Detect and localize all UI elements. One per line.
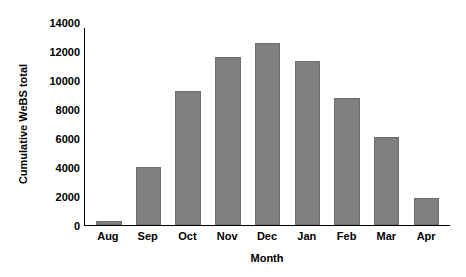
y-axis-tick: 6000 <box>34 133 80 145</box>
x-axis-tick: Aug <box>88 230 128 246</box>
bar <box>295 61 320 225</box>
y-axis-tick: 8000 <box>34 104 80 116</box>
x-axis-tick: Nov <box>207 230 247 246</box>
bar <box>414 198 439 225</box>
x-axis-tick: Feb <box>327 230 367 246</box>
y-axis-title: Cumulative WeBS total <box>14 14 32 234</box>
x-axis-tick: Sep <box>128 230 168 246</box>
bar <box>334 98 359 225</box>
x-axis-title: Month <box>84 252 450 264</box>
x-axis-tick: Dec <box>247 230 287 246</box>
bar-slot <box>406 28 446 225</box>
bar-slot <box>248 28 288 225</box>
bar-slot <box>89 28 129 225</box>
bar-slot <box>327 28 367 225</box>
bar-slot <box>168 28 208 225</box>
y-axis-tick: 0 <box>34 220 80 232</box>
x-axis-tick: Apr <box>406 230 446 246</box>
bar-chart: Cumulative WeBS total 140001200010000800… <box>0 0 466 277</box>
y-axis-tick: 14000 <box>34 17 80 29</box>
y-axis-tick: 12000 <box>34 46 80 58</box>
bar-series <box>85 28 450 225</box>
y-axis-title-label: Cumulative WeBS total <box>17 64 29 184</box>
x-axis-tick-labels: AugSepOctNovDecJanFebMarApr <box>84 230 450 246</box>
bar <box>175 91 200 225</box>
y-axis-tick: 2000 <box>34 191 80 203</box>
x-axis-tick: Jan <box>287 230 327 246</box>
y-axis-tick: 4000 <box>34 162 80 174</box>
bar-slot <box>208 28 248 225</box>
x-axis-tick: Oct <box>168 230 208 246</box>
bar <box>374 137 399 225</box>
bar <box>136 167 161 225</box>
y-axis-tick-labels: 14000120001000080006000400020000 <box>34 23 80 226</box>
bar <box>215 57 240 225</box>
bar-slot <box>287 28 327 225</box>
x-axis-tick: Mar <box>366 230 406 246</box>
bar-slot <box>129 28 169 225</box>
bar-slot <box>367 28 407 225</box>
bar <box>96 221 121 225</box>
y-axis-tick: 10000 <box>34 75 80 87</box>
bar <box>255 43 280 225</box>
plot-area <box>84 28 450 226</box>
